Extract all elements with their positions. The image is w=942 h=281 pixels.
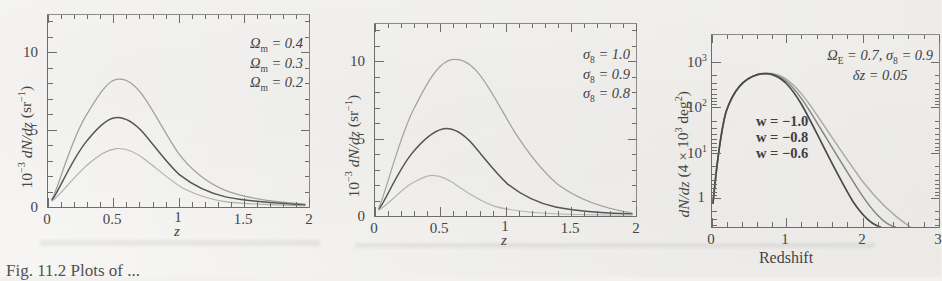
panel1-ytick-right-minor — [305, 21, 309, 22]
panel2-xtick-label: 0 — [370, 220, 378, 237]
panel2-ytick-right-minor — [632, 185, 636, 186]
panel3-ytick-right-minor — [935, 219, 939, 220]
panel3-xtick-top-minor — [727, 35, 728, 39]
panel3-xtick-minor — [757, 222, 758, 227]
panel3-ytick-major — [712, 198, 721, 199]
panel3-ytick-label: 1 — [665, 189, 705, 206]
panel1-xtick-minor — [139, 202, 140, 207]
figure-caption: Fig. 11.2 Plots of ... — [6, 261, 140, 281]
panel2-xtick-top-major — [440, 24, 441, 32]
panel3-ytick-minor — [712, 139, 717, 140]
panel2-xtick-top-minor — [519, 24, 520, 28]
panel3-ytick-right-minor — [935, 104, 939, 105]
panel3-ytick-minor — [712, 180, 717, 181]
panel1-ytick-minor — [48, 99, 53, 100]
panel1-xtick-top-minor — [87, 15, 88, 19]
panel1-ytick-right-minor — [305, 99, 309, 100]
panel3-ytick-minor — [712, 166, 717, 167]
panel1-ytick-right-minor — [305, 114, 309, 115]
panel3-ytick-right-minor — [935, 128, 939, 129]
panel1-x-axis-label: z — [174, 223, 180, 240]
panel2-ytick-minor — [375, 154, 380, 155]
panel3-xtick-top-minor — [908, 35, 909, 39]
panel1-ytick-right-minor — [305, 161, 309, 162]
panel1-ytick-right-minor — [305, 176, 309, 177]
panel1-xtick-top-minor — [153, 15, 154, 19]
panel1-ytick-right-major — [301, 130, 309, 131]
panel3-ytick-right-minor — [935, 166, 939, 167]
panel3-ytick-right-minor — [935, 89, 939, 90]
panel2-xtick-minor — [545, 211, 546, 216]
panel-sigma-8: 10−3 dN/dz (sr−1) — [327, 9, 647, 249]
panel2-xtick-minor — [558, 211, 559, 216]
panel1-xtick-top-minor — [192, 15, 193, 19]
panel3-ytick-right-minor — [935, 150, 939, 151]
panel1-xtick-top-major — [179, 15, 180, 23]
panel3-annotation-line: δz = 0.05 — [827, 67, 933, 83]
panel2-x-axis-label: z — [501, 232, 507, 249]
panel1-ytick-right-major — [301, 207, 309, 208]
panel3-ytick-minor — [712, 188, 717, 189]
panel-omega-m: 10−3 dN/dz (sr−1) — [0, 0, 320, 240]
panel2-xtick-minor — [414, 211, 415, 216]
panel1-legend: Ωm = 0.4 Ωm = 0.3 Ωm = 0.2 — [250, 35, 303, 94]
panel3-xtick-top-minor — [801, 35, 802, 39]
panel1-ytick-minor — [48, 192, 53, 193]
panel2-ytick-minor — [375, 185, 380, 186]
panel2-legend-item: σ8 = 0.9 — [583, 66, 630, 86]
panel3-ytick-minor — [712, 225, 717, 226]
panel2-ytick-major — [375, 61, 384, 62]
panel1-ytick-minor — [48, 68, 53, 69]
panel3-xtick-top-major — [863, 35, 864, 43]
panel2-xtick-minor — [623, 211, 624, 216]
panel1-legend-item: Ωm = 0.3 — [250, 55, 303, 75]
page-smudge — [40, 240, 320, 246]
panel1-legend-item: Ωm = 0.4 — [250, 35, 303, 55]
panel3-ytick-right-minor — [935, 184, 939, 185]
panel3-ytick-right-major — [931, 107, 939, 108]
panel2-xtick-top-major — [506, 24, 507, 32]
panel1-xtick-minor — [283, 202, 284, 207]
panel2-ytick-minor — [375, 77, 380, 78]
panel3-ytick-right-minor — [935, 83, 939, 84]
panel3-xtick-minor — [893, 222, 894, 227]
panel2-xtick-top-minor — [466, 24, 467, 28]
panel2-ytick-right-minor — [632, 46, 636, 47]
panel3-ytick-minor — [712, 128, 717, 129]
panel2-xtick-top-minor — [388, 24, 389, 28]
panel2-ytick-right-minor — [632, 123, 636, 124]
panel1-ytick-minor — [48, 21, 53, 22]
panel2-ytick-minor — [375, 201, 380, 202]
panel2-xtick-minor — [584, 211, 585, 216]
panel1-xtick-minor — [87, 202, 88, 207]
panel3-xtick-top-minor — [847, 35, 848, 39]
panel3-ytick-minor — [712, 94, 717, 95]
panel2-xtick-top-minor — [584, 24, 585, 28]
panel2-legend: σ8 = 1.0 σ8 = 0.9 σ8 = 0.8 — [583, 46, 630, 105]
panel2-xtick-top-minor — [532, 24, 533, 28]
panel1-xtick-minor — [270, 202, 271, 207]
panel2-ytick-minor — [375, 30, 380, 31]
panel3-ytick-minor — [712, 147, 717, 148]
panel-w: dN/dz (4 × 103 deg2) — [655, 20, 941, 277]
panel1-xtick-major — [179, 198, 180, 207]
panel2-ytick-right-major — [628, 216, 636, 217]
panel2-xtick-minor — [519, 211, 520, 216]
panel1-xtick-top-minor — [218, 15, 219, 19]
panel3-xtick-minor — [924, 222, 925, 227]
panel3-ytick-minor — [712, 211, 717, 212]
panel1-xtick-minor — [126, 202, 127, 207]
panel3-ytick-right-major — [931, 153, 939, 154]
panel1-ytick-right-minor — [305, 83, 309, 84]
panel3-ytick-right-minor — [935, 195, 939, 196]
panel1-ytick-minor — [48, 145, 53, 146]
panel3-legend-item: w = −0.8 — [756, 129, 808, 145]
panel3-ytick-right-minor — [935, 147, 939, 148]
panel2-xtick-minor — [532, 211, 533, 216]
panel3-parameter-annotation: ΩE = 0.7, σ8 = 0.9 δz = 0.05 — [827, 47, 933, 83]
panel3-frame: ΩE = 0.7, σ8 = 0.9 δz = 0.05 w = −1.0 w … — [711, 34, 940, 228]
panel1-ytick-label: 5 — [6, 122, 38, 139]
panel3-ytick-right-minor — [935, 134, 939, 135]
panel3-xtick-top-minor — [772, 35, 773, 39]
panel3-xtick-top-minor — [817, 35, 818, 39]
